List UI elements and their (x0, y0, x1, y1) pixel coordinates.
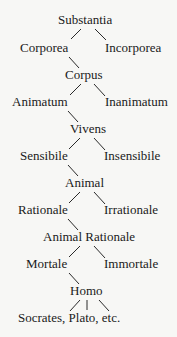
node-homo: Homo (70, 283, 103, 298)
node-corpus: Corpus (65, 67, 103, 82)
node-individuals: Socrates, Plato, etc. (18, 310, 120, 325)
node-incorporea: Incorporea (105, 40, 161, 55)
node-vivens: Vivens (70, 121, 106, 136)
node-animal: Animal (65, 175, 104, 190)
node-animatum: Animatum (12, 94, 68, 109)
node-sensibile: Sensibile (20, 148, 68, 163)
node-inanimatum: Inanimatum (105, 94, 168, 109)
node-immortale: Immortale (104, 256, 158, 271)
node-corporea: Corporea (20, 40, 68, 55)
node-irrationale: Irrationale (104, 202, 158, 217)
node-insensibile: Insensibile (104, 148, 160, 163)
node-substantia: Substantia (58, 12, 112, 27)
node-mortale: Mortale (26, 256, 67, 271)
node-animal-rationale: Animal Rationale (43, 229, 135, 244)
node-rationale: Rationale (18, 202, 68, 217)
